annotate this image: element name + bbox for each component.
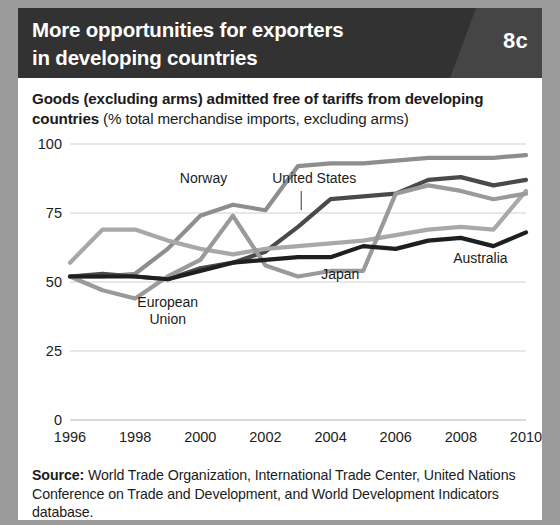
x-tick-label-2002: 2002 — [249, 429, 281, 445]
source-note: Source: World Trade Organization, Intern… — [32, 466, 528, 522]
y-tick-label-50: 50 — [46, 274, 62, 290]
figure-panel: More opportunities for exporters in deve… — [18, 8, 542, 520]
y-tick-label-0: 0 — [54, 412, 62, 428]
chart-plot-area: 0255075100 NorwayUnited StatesEuropeanUn… — [18, 132, 542, 462]
series-label-australia: Australia — [453, 250, 508, 266]
series-label-norway: Norway — [180, 170, 227, 186]
subtitle-normal: (% total merchandise imports, excluding … — [99, 110, 409, 127]
title-line-1: More opportunities for exporters — [32, 18, 343, 41]
y-tick-label-75: 75 — [46, 205, 62, 221]
chart-subtitle: Goods (excluding arms) admitted free of … — [32, 89, 528, 128]
source-text: World Trade Organization, International … — [32, 467, 515, 520]
series-label-japan: Japan — [321, 266, 359, 282]
page-title: More opportunities for exporters in deve… — [32, 16, 432, 72]
x-tick-label-2006: 2006 — [380, 429, 412, 445]
x-tick-label-2000: 2000 — [184, 429, 216, 445]
series-label-united-states: United States — [272, 170, 356, 186]
title-line-2: in developing countries — [32, 44, 432, 72]
series-label-european-union-line2: Union — [149, 311, 186, 327]
line-chart-svg: 0255075100 NorwayUnited StatesEuropeanUn… — [18, 132, 542, 462]
x-tick-label-1998: 1998 — [119, 429, 151, 445]
x-tick-label-1996: 1996 — [54, 429, 86, 445]
x-axis-ticks-group: 19961998200020022004200620082010 — [54, 429, 542, 445]
series-label-european-union: European — [137, 294, 198, 310]
chart-header: More opportunities for exporters in deve… — [18, 8, 542, 78]
x-tick-label-2010: 2010 — [510, 429, 542, 445]
y-axis-ticks-group: 0255075100 — [38, 136, 62, 428]
y-tick-label-100: 100 — [38, 136, 62, 152]
y-tick-label-25: 25 — [46, 343, 62, 359]
figure-number-badge: 8c — [503, 28, 528, 54]
x-tick-label-2004: 2004 — [314, 429, 346, 445]
badge-wedge-shape — [450, 8, 542, 78]
source-label: Source: — [32, 467, 84, 483]
x-tick-label-2008: 2008 — [445, 429, 477, 445]
